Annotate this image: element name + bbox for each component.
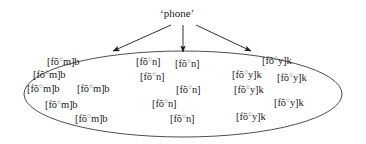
token-suffix: m]b (61, 99, 78, 110)
token-suffix: n] (191, 58, 200, 69)
token-suffix: n] (186, 113, 195, 124)
allophone-token-right-5: [fõ○y]k (274, 98, 304, 109)
arrow-to-left-cluster (113, 25, 171, 51)
token-prefix: [fõ (47, 56, 59, 67)
allophone-token-middle-5: [fõ○n] (152, 99, 176, 110)
token-prefix: [fõ (45, 99, 57, 110)
token-prefix: [fõ (27, 83, 39, 94)
token-suffix: m]b (93, 83, 110, 94)
token-suffix: y]k (278, 55, 292, 66)
allophone-token-left-6: [fõ○m]b (75, 114, 108, 125)
allophone-token-right-3: [fõ○y]k (277, 73, 307, 84)
token-prefix: [fõ (75, 113, 87, 124)
token-prefix: [fõ (262, 55, 274, 66)
allophone-token-right-1: [fõ○y]k (262, 56, 292, 67)
token-prefix: [fõ (33, 69, 45, 80)
allophone-token-left-2: [fõ○m]b (33, 70, 66, 81)
token-prefix: [fõ (236, 111, 248, 122)
token-prefix: [fõ (274, 97, 286, 108)
allophone-token-right-2: [fõ○y]k (232, 70, 262, 81)
token-suffix: m]b (43, 83, 60, 94)
token-prefix: [fõ (234, 84, 246, 95)
allophone-token-middle-6: [fõ○n] (170, 114, 194, 125)
allophone-token-middle-4: [fõ○n] (176, 85, 200, 96)
token-suffix: y]k (293, 72, 307, 83)
allophone-distribution-figure: ‘phone’ [fõ○m]b[fõ○m]b[fõ○m]b[fõ○m]b[fõ○… (0, 0, 366, 144)
token-suffix: n] (192, 84, 201, 95)
token-prefix: [fõ (277, 72, 289, 83)
token-prefix: [fõ (140, 71, 152, 82)
allophone-token-left-3: [fõ○m]b (27, 84, 60, 95)
token-prefix: [fõ (175, 58, 187, 69)
token-suffix: n] (156, 71, 165, 82)
page-title: ‘phone’ (160, 8, 194, 19)
token-prefix: [fõ (77, 83, 89, 94)
token-prefix: [fõ (232, 69, 244, 80)
allophone-token-left-5: [fõ○m]b (45, 100, 78, 111)
token-prefix: [fõ (152, 98, 164, 109)
root-label-text: ‘phone’ (160, 7, 194, 19)
token-suffix: n] (168, 98, 177, 109)
token-suffix: m]b (91, 113, 108, 124)
allophone-token-middle-3: [fõ○n] (140, 72, 164, 83)
token-suffix: m]b (49, 69, 66, 80)
allophone-token-middle-2: [fõ○n] (175, 59, 199, 70)
arrow-to-right-cluster (196, 25, 251, 51)
allophone-token-left-1: [fõ○m]b (47, 57, 80, 68)
allophone-token-right-6: [fõ○y]k (236, 112, 266, 123)
token-prefix: [fõ (170, 113, 182, 124)
token-suffix: y]k (290, 97, 304, 108)
token-prefix: [fõ (136, 56, 148, 67)
allophone-token-middle-1: [fõ○n] (136, 57, 160, 68)
allophone-token-right-4: [fõ○y]k (234, 85, 264, 96)
token-suffix: n] (152, 56, 161, 67)
token-suffix: y]k (252, 111, 266, 122)
token-suffix: y]k (250, 84, 264, 95)
allophone-token-left-4: [fõ○m]b (77, 84, 110, 95)
token-prefix: [fõ (176, 84, 188, 95)
token-suffix: y]k (248, 69, 262, 80)
token-suffix: m]b (63, 56, 80, 67)
